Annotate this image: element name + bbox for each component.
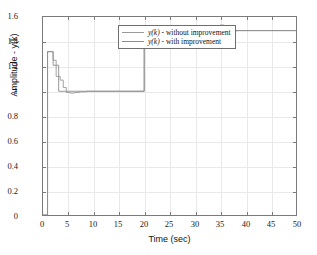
- xtick-label-20: 20: [131, 220, 157, 229]
- ytick-label-0: 0: [0, 212, 18, 221]
- xtick-label-50: 50: [284, 220, 310, 229]
- xtick-label-25: 25: [156, 220, 182, 229]
- legend-item-without-improvement[interactable]: y(k) - without improvement: [122, 28, 231, 37]
- legend-label-prefix-1: y(k): [148, 37, 160, 46]
- legend[interactable]: y(k) - without improvement y(k) - with i…: [118, 25, 236, 49]
- xtick-label-35: 35: [207, 220, 233, 229]
- legend-label-without-improvement: y(k) - without improvement: [148, 28, 231, 37]
- legend-item-with-improvement[interactable]: y(k) - with improvement: [122, 37, 231, 46]
- xtick-label-40: 40: [233, 220, 259, 229]
- legend-label-suffix-0: - without improvement: [160, 28, 231, 37]
- chart-figure: 0 0.2 0.4 0.6 0.8 1 1.2 1.4 1.6 0 5 10 1…: [0, 0, 317, 255]
- xtick-label-5: 5: [54, 220, 80, 229]
- legend-swatch-with-improvement: [122, 41, 144, 42]
- xtick-label-45: 45: [258, 220, 284, 229]
- xtick-label-10: 10: [80, 220, 106, 229]
- legend-label-suffix-1: - with improvement: [160, 37, 221, 46]
- series-line-0: [43, 25, 296, 215]
- legend-label-with-improvement: y(k) - with improvement: [148, 37, 221, 46]
- ytick-label-0.2: 0.2: [0, 187, 18, 196]
- y-axis-title: Amplitude - y(k): [9, 5, 19, 125]
- legend-swatch-without-improvement: [122, 32, 144, 33]
- x-axis-title: Time (sec): [42, 234, 297, 244]
- xtick-label-15: 15: [105, 220, 131, 229]
- ytick-label-0.4: 0.4: [0, 162, 18, 171]
- xtick-label-0: 0: [29, 220, 55, 229]
- series-line-1: [43, 31, 296, 215]
- xtick-label-30: 30: [182, 220, 208, 229]
- ytick-label-0.6: 0.6: [0, 137, 18, 146]
- legend-label-prefix-0: y(k): [148, 28, 160, 37]
